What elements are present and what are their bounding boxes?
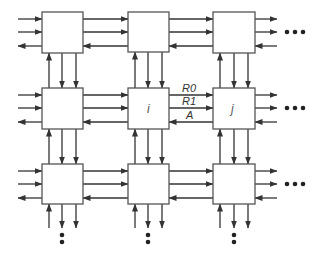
link-label-r0: R0 [182,82,197,94]
node-r2-c2 [213,164,255,204]
vertical-continuation-dots [60,233,237,245]
node-j: j [213,88,255,129]
node-r0-c1 [128,12,169,52]
node-i-label: i [147,102,150,116]
col-links-r1-r2 [49,129,248,164]
mesh-diagram: i j R0 R1 A [0,0,317,257]
node-r0-c0 [42,12,83,53]
link-label-r1: R1 [182,95,196,107]
node-r2-c0 [42,164,83,204]
node-i: i [128,88,169,129]
node-r2-c1 [128,164,169,204]
link-label-a: A [185,109,193,121]
col-links-bottom [49,204,248,228]
node-r1-c0 [42,88,83,129]
col-links-r0-r1 [49,52,248,88]
horizontal-continuation-dots [285,30,306,187]
node-r0-c2 [213,12,255,53]
